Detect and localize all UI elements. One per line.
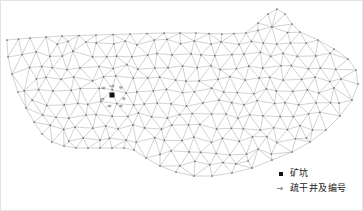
mesh-node [170,103,172,105]
mesh-node [271,26,273,28]
mesh-node [315,55,317,57]
filled-square-marker-icon [272,172,290,176]
mine-pit-marker [110,93,115,98]
mesh-node [257,148,259,150]
mesh-node [29,67,31,69]
mesh-node [111,115,113,117]
well-label: S4 [101,87,104,90]
mesh-node [325,129,327,131]
mesh-node [185,80,187,82]
mesh-node [133,149,135,151]
mesh-node [95,42,97,44]
mesh-node [210,43,212,45]
mesh-node [229,154,231,156]
mesh-node [259,129,261,131]
mesh-node [63,129,65,131]
mesh-node [306,89,308,91]
mesh-node [180,43,182,45]
mesh-node [257,22,259,24]
mesh-node [115,75,117,77]
mesh-node [267,13,269,15]
mesh-node [46,105,48,107]
mesh-node [170,150,172,152]
well-label: S3 [110,85,113,88]
mesh-node [42,114,44,116]
mesh-node [67,40,69,42]
mesh-node [62,55,64,57]
mesh-node [153,39,155,41]
mesh-node [196,67,198,69]
mesh-node [111,147,113,149]
mesh-node [51,141,53,143]
mesh-node [282,53,284,55]
mesh-node [229,76,231,78]
mesh-node [123,147,125,149]
mesh-node [63,104,65,106]
mesh-node [111,89,113,91]
mesh-node [305,42,307,44]
mesh-node [244,79,246,81]
mesh-node [256,100,258,102]
mesh-node [132,77,134,79]
legend-label-mine-pit: 矿坑 [290,168,309,179]
mesh-node [314,76,316,78]
mesh-node [271,159,273,161]
mesh-node [333,87,335,89]
mesh-node [112,68,114,70]
mesh-node [221,33,223,35]
mesh-node [188,124,190,126]
mesh-node [179,165,181,167]
mesh-node [287,129,289,131]
mesh-node [143,103,145,105]
mesh-node [159,165,161,167]
mesh-node [55,116,57,118]
mesh-node [238,44,240,46]
mesh-node [66,69,68,71]
well-label: S7 [119,105,122,108]
mesh-node [175,79,177,81]
mesh-node [338,102,340,104]
mesh-node [147,54,149,56]
mesh-node [308,113,310,115]
mesh-node [125,139,127,141]
mesh-node [38,89,40,91]
mesh-node [112,34,114,36]
mesh-node [347,58,349,60]
mesh-node [105,125,107,127]
mesh-node [136,91,138,93]
mesh-node [154,67,156,69]
mesh-node [77,103,79,105]
mesh-node [249,114,251,116]
mesh-node [153,90,155,92]
legend: 矿坑 疏干井及编号 [272,166,360,200]
mesh-node [279,116,281,118]
mesh-node [179,114,181,116]
mesh-node [159,76,161,78]
mesh-node [7,56,9,58]
mesh-node [262,67,264,69]
mesh-node [79,67,81,69]
mesh-node [252,136,254,138]
mesh-node [231,102,233,104]
mesh-node [116,55,118,57]
mesh-node [68,117,70,119]
mesh-node [63,145,65,147]
mesh-node [31,99,33,101]
mesh-node [95,114,97,116]
mesh-node [274,103,276,105]
mesh-node [35,51,37,53]
mesh-node [171,54,173,56]
mesh-node [292,91,294,93]
mesh-node [144,127,146,129]
mesh-node [237,117,239,119]
mesh-node [276,43,278,45]
mesh-node [299,125,301,127]
mesh-node [25,107,27,109]
mesh-node [308,68,310,70]
mesh-node [275,90,277,92]
mesh-node [312,129,314,131]
mesh-node [106,56,108,58]
mesh-node [41,133,43,135]
mesh-node [291,65,293,67]
mesh-node [138,112,140,114]
